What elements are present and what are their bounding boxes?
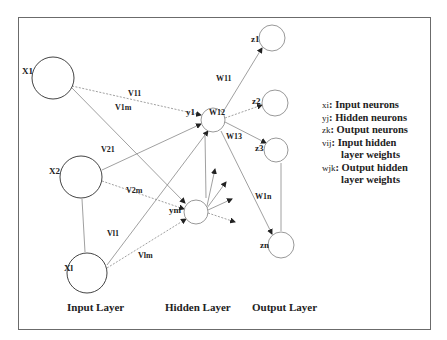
legend-text: : Output hidden (336, 162, 408, 173)
label-x1: X1 (22, 66, 33, 76)
legend-item-continuation: layer weights (322, 174, 408, 187)
label-z2: z2 (252, 96, 261, 106)
output-layer-label: Output Layer (252, 301, 317, 313)
weight-labels: V11 V1m V21 V2m Vl1 Vlm W11 W12 W13 W1n (101, 74, 272, 260)
edge-xl-ym (107, 219, 186, 268)
edge-ym-out-1 (207, 169, 215, 206)
legend-item-input-hidden-weights: vij: Input hidden (322, 137, 408, 150)
node-x2 (60, 156, 102, 198)
legend-text: : Input neurons (329, 99, 399, 110)
input-layer-label: Input Layer (67, 301, 124, 313)
input-layer-nodes (32, 57, 107, 293)
label-vlm: Vlm (138, 251, 153, 260)
label-v1m: V1m (115, 103, 132, 112)
label-z1: z1 (251, 34, 260, 44)
node-zn (268, 232, 294, 258)
legend-symbol: vij (322, 138, 332, 148)
node-z3 (264, 138, 288, 162)
edge-xl-y1 (107, 131, 208, 265)
legend-text: : Hidden neurons (329, 112, 407, 123)
edge-ym-out-2 (207, 182, 226, 208)
legend-symbol: zk (322, 125, 331, 135)
label-z3: z3 (255, 143, 264, 153)
edge-ym-out-4 (208, 213, 235, 222)
legend-item-output-hidden-weights: wjk: Output hidden (322, 162, 408, 175)
legend-text: layer weights (341, 149, 400, 160)
label-w12: W12 (209, 108, 225, 117)
legend-text: layer weights (341, 174, 400, 185)
ellipsis-line-hidden (205, 134, 206, 198)
label-w13: W13 (226, 132, 242, 141)
edge-y1-z2 (225, 105, 262, 118)
hidden-layer-label: Hidden Layer (165, 301, 231, 313)
legend-symbol: wjk (322, 163, 336, 173)
label-vl1: Vl1 (107, 229, 119, 238)
legend-text: : Input hidden (332, 137, 397, 148)
label-w1n: W1n (255, 192, 272, 201)
legend: xi: Input neurons yj: Hidden neurons zk:… (322, 99, 408, 187)
legend-item-input: xi: Input neurons (322, 99, 408, 112)
hidden-layer-nodes (184, 108, 225, 224)
edge-x2-y1 (102, 124, 201, 170)
label-v2m: V2m (126, 186, 143, 195)
legend-item-output: zk: Output neurons (322, 124, 408, 137)
edge-ym-out-3 (208, 199, 232, 210)
node-x1 (32, 57, 74, 99)
label-xl: Xl (64, 263, 73, 273)
legend-symbol: yj (322, 113, 329, 123)
label-w11: W11 (216, 74, 232, 83)
label-x2: X2 (49, 166, 60, 176)
node-ym (184, 200, 208, 224)
label-y1: y1 (186, 107, 196, 117)
node-z2 (262, 90, 288, 116)
label-v21: V21 (101, 145, 115, 154)
label-ym: ym (169, 205, 182, 215)
output-layer-nodes (259, 25, 294, 258)
node-z1 (259, 25, 285, 51)
legend-item-continuation: layer weights (322, 149, 408, 162)
ellipsis-line-input (82, 199, 85, 252)
label-v11: V11 (128, 89, 141, 98)
legend-item-hidden: yj: Hidden neurons (322, 112, 408, 125)
legend-text: : Output neurons (331, 124, 408, 135)
node-xl (67, 253, 107, 293)
label-zn: zn (260, 240, 269, 250)
legend-symbol: xi (322, 100, 329, 110)
